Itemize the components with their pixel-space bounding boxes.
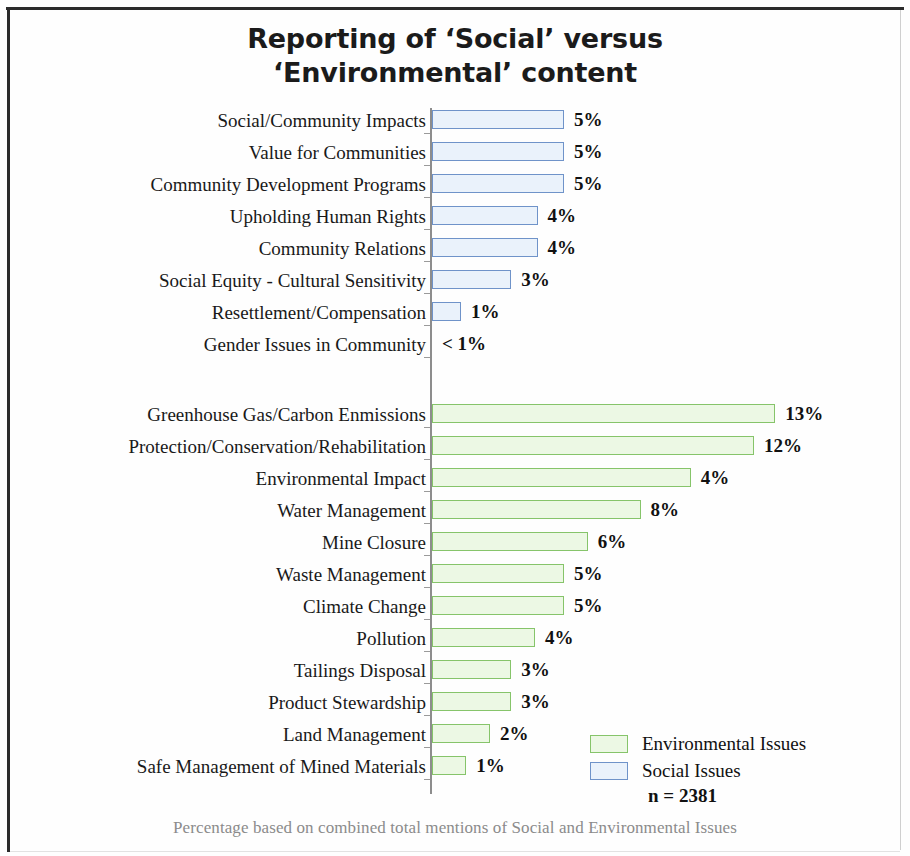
plot-area: Social/Community Impacts5%Value for Comm… xyxy=(0,106,910,806)
bar-social xyxy=(432,238,538,257)
bar-row: Pollution4% xyxy=(0,624,910,656)
category-label: Upholding Human Rights xyxy=(6,205,426,229)
bar-row: Gender Issues in Community< 1% xyxy=(0,330,910,362)
axis-tick xyxy=(424,427,430,428)
axis-tick xyxy=(424,523,430,524)
bar-value-label: 1% xyxy=(476,754,505,778)
bar-social xyxy=(432,174,564,193)
bar-value-label: < 1% xyxy=(442,332,486,356)
bar-environmental xyxy=(432,500,641,519)
bar-value-label: 5% xyxy=(574,594,603,618)
bar-row: Product Stewardship3% xyxy=(0,688,910,720)
axis-tick xyxy=(424,555,430,556)
bar-environmental xyxy=(432,724,490,743)
category-label: Environmental Impact xyxy=(6,467,426,491)
bar-value-label: 1% xyxy=(471,300,500,324)
bar-row: Tailings Disposal3% xyxy=(0,656,910,688)
bar-social xyxy=(432,110,564,129)
bar-social xyxy=(432,270,511,289)
bar-row: Upholding Human Rights4% xyxy=(0,202,910,234)
bar-row: Community Relations4% xyxy=(0,234,910,266)
legend-swatch-environmental-icon xyxy=(590,735,628,753)
bar-social xyxy=(432,142,564,161)
category-label: Protection/Conservation/Rehabilitation xyxy=(6,435,426,459)
sample-size-label: n = 2381 xyxy=(648,785,717,807)
bar-row: Protection/Conservation/Rehabilitation12… xyxy=(0,432,910,464)
page-frame-top-border xyxy=(6,7,904,10)
axis-tick xyxy=(424,357,430,358)
bar-row: Greenhouse Gas/Carbon Enmissions13% xyxy=(0,400,910,432)
bar-environmental xyxy=(432,468,691,487)
chart-title-line-1: Reporting of ‘Social’ versus xyxy=(55,22,855,56)
bar-value-label: 4% xyxy=(548,204,577,228)
axis-tick xyxy=(424,491,430,492)
axis-tick xyxy=(424,683,430,684)
legend-item-environmental: Environmental Issues xyxy=(590,731,890,758)
bar-row: Community Development Programs5% xyxy=(0,170,910,202)
category-label: Social/Community Impacts xyxy=(6,109,426,133)
bar-row: Social/Community Impacts5% xyxy=(0,106,910,138)
bar-value-label: 8% xyxy=(651,498,680,522)
bar-value-label: 13% xyxy=(785,402,823,426)
legend-label-environmental: Environmental Issues xyxy=(642,731,806,757)
bar-value-label: 5% xyxy=(574,140,603,164)
axis-tick xyxy=(424,197,430,198)
axis-tick xyxy=(424,293,430,294)
axis-tick xyxy=(424,325,430,326)
bar-environmental xyxy=(432,756,466,775)
bar-value-label: 4% xyxy=(545,626,574,650)
bar-value-label: 3% xyxy=(521,268,550,292)
bar-value-label: 3% xyxy=(521,658,550,682)
axis-tick xyxy=(424,747,430,748)
axis-tick xyxy=(424,779,430,780)
axis-tick xyxy=(424,165,430,166)
category-label: Resettlement/Compensation xyxy=(6,301,426,325)
category-label: Pollution xyxy=(6,627,426,651)
bar-value-label: 2% xyxy=(500,722,529,746)
bar-environmental xyxy=(432,660,511,679)
chart-page: Reporting of ‘Social’ versus ‘Environmen… xyxy=(0,0,910,856)
bar-environmental xyxy=(432,404,775,423)
category-label: Water Management xyxy=(6,499,426,523)
category-label: Product Stewardship xyxy=(6,691,426,715)
axis-tick xyxy=(424,229,430,230)
bar-social xyxy=(432,302,461,321)
legend-item-social: Social Issues xyxy=(590,758,890,785)
category-label: Value for Communities xyxy=(6,141,426,165)
axis-tick xyxy=(424,587,430,588)
chart-title: Reporting of ‘Social’ versus ‘Environmen… xyxy=(55,22,855,90)
bar-value-label: 4% xyxy=(548,236,577,260)
category-label: Waste Management xyxy=(6,563,426,587)
axis-tick xyxy=(424,651,430,652)
chart-footnote: Percentage based on combined total menti… xyxy=(0,818,910,838)
bar-row: Water Management8% xyxy=(0,496,910,528)
bar-value-label: 4% xyxy=(701,466,730,490)
bar-environmental xyxy=(432,692,511,711)
axis-tick xyxy=(424,459,430,460)
chart-legend: Environmental Issues Social Issues xyxy=(590,731,890,785)
category-label: Social Equity - Cultural Sensitivity xyxy=(6,269,426,293)
bar-value-label: 5% xyxy=(574,172,603,196)
bar-row: Resettlement/Compensation1% xyxy=(0,298,910,330)
category-label: Tailings Disposal xyxy=(6,659,426,683)
bar-row: Climate Change5% xyxy=(0,592,910,624)
category-label: Community Relations xyxy=(6,237,426,261)
legend-label-social: Social Issues xyxy=(642,758,741,784)
bar-value-label: 6% xyxy=(598,530,627,554)
bar-value-label: 12% xyxy=(764,434,802,458)
category-label: Land Management xyxy=(6,723,426,747)
axis-tick xyxy=(424,261,430,262)
bar-row: Social Equity - Cultural Sensitivity3% xyxy=(0,266,910,298)
axis-tick xyxy=(424,133,430,134)
bar-environmental xyxy=(432,436,754,455)
bar-environmental xyxy=(432,532,588,551)
bar-environmental xyxy=(432,564,564,583)
category-label: Gender Issues in Community xyxy=(6,333,426,357)
category-label: Community Development Programs xyxy=(6,173,426,197)
axis-tick xyxy=(424,715,430,716)
page-frame-bottom-border xyxy=(10,851,900,852)
chart-title-line-2: ‘Environmental’ content xyxy=(55,56,855,90)
axis-tick xyxy=(424,619,430,620)
bar-environmental xyxy=(432,628,535,647)
category-label: Mine Closure xyxy=(6,531,426,555)
